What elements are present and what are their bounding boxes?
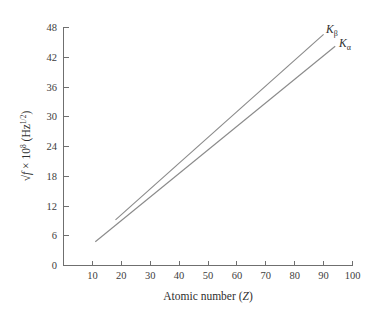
x-tick-label-80: 80	[289, 270, 300, 281]
series-label-k-beta: Kβ	[325, 23, 338, 38]
y-tick-label-30: 30	[47, 111, 58, 122]
y-axis-title: √f × 108 (Hz1/2)	[19, 111, 33, 182]
x-tick-label-50: 50	[203, 270, 214, 281]
x-axis-ticks	[92, 261, 352, 266]
x-tick-label-10: 10	[87, 270, 98, 281]
y-axis-ticks	[64, 28, 69, 266]
y-tick-label-18: 18	[47, 171, 58, 182]
moseley-law-chart: 0 6 12 18 24 30 36 42 48 10 20 30 40 50 …	[0, 0, 378, 315]
x-tick-label-70: 70	[261, 270, 272, 281]
series-label-k-alpha: Kα	[338, 37, 352, 52]
x-tick-label-100: 100	[345, 270, 361, 281]
x-tick-label-60: 60	[232, 270, 243, 281]
x-tick-label-90: 90	[318, 270, 329, 281]
figure-container: 0 6 12 18 24 30 36 42 48 10 20 30 40 50 …	[0, 0, 378, 315]
y-tick-label-0: 0	[52, 260, 57, 271]
x-axis-title: Atomic number (Z)	[163, 290, 253, 303]
y-tick-label-36: 36	[47, 82, 58, 93]
y-tick-label-42: 42	[47, 52, 58, 63]
y-tick-label-48: 48	[47, 22, 58, 33]
y-tick-label-6: 6	[52, 230, 57, 241]
y-tick-label-24: 24	[47, 141, 58, 152]
series-line-k-alpha	[95, 46, 335, 241]
x-tick-label-30: 30	[145, 270, 156, 281]
y-tick-label-12: 12	[47, 201, 58, 212]
x-tick-label-20: 20	[116, 270, 127, 281]
x-tick-label-40: 40	[174, 270, 185, 281]
series-line-k-beta	[116, 34, 324, 220]
